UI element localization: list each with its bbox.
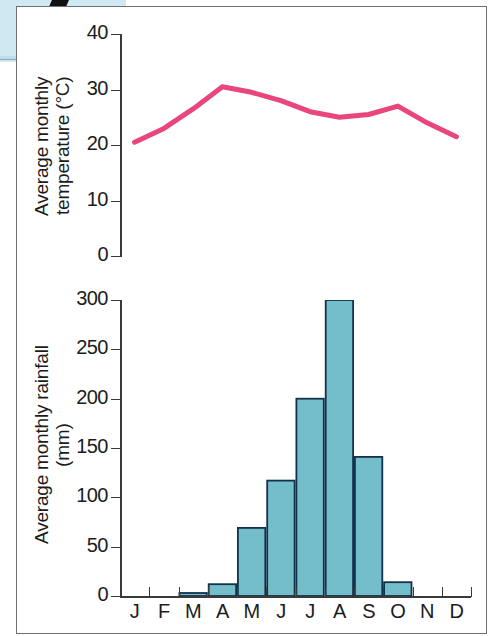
rainfall-x-tick bbox=[208, 587, 209, 597]
temperature-line-svg bbox=[120, 34, 471, 256]
rainfall-bar bbox=[296, 399, 323, 596]
rainfall-y-tick-label: 150 bbox=[48, 435, 108, 458]
temperature-y-tick-label: 30 bbox=[58, 77, 108, 100]
rainfall-x-tick bbox=[383, 587, 384, 597]
rainfall-x-tick bbox=[179, 587, 180, 597]
temperature-line bbox=[135, 87, 457, 143]
rainfall-bars-svg bbox=[120, 300, 471, 596]
rainfall-x-tick bbox=[442, 587, 443, 597]
rainfall-bar bbox=[267, 481, 294, 596]
rainfall-x-tick bbox=[120, 587, 121, 597]
month-label-j-0: J bbox=[123, 600, 147, 623]
temperature-y-tick-label: 40 bbox=[58, 21, 108, 44]
rainfall-chart: Average monthly rainfall (mm) 0501001502… bbox=[17, 289, 488, 635]
month-label-m-2: M bbox=[181, 600, 205, 623]
month-label-j-6: J bbox=[298, 600, 322, 623]
rainfall-y-tick-label: 250 bbox=[48, 336, 108, 359]
month-label-d-11: D bbox=[444, 600, 468, 623]
climate-figure-panel: Average monthly temperature (°C) 0102030… bbox=[16, 6, 487, 634]
rainfall-x-tick bbox=[354, 587, 355, 597]
month-label-f-1: F bbox=[152, 600, 176, 623]
rainfall-y-tick-label: 50 bbox=[48, 534, 108, 557]
rainfall-bar bbox=[384, 582, 411, 596]
month-label-m-4: M bbox=[240, 600, 264, 623]
rainfall-x-tick bbox=[471, 587, 472, 597]
temperature-y-tick-label: 0 bbox=[58, 243, 108, 266]
temperature-y-tick-label: 10 bbox=[58, 188, 108, 211]
month-label-o-9: O bbox=[386, 600, 410, 623]
temperature-y-tick-label: 20 bbox=[58, 132, 108, 155]
rainfall-x-tick bbox=[266, 587, 267, 597]
rainfall-x-tick bbox=[237, 587, 238, 597]
rainfall-bar-group bbox=[179, 300, 411, 596]
temperature-chart: Average monthly temperature (°C) 0102030… bbox=[17, 7, 488, 292]
month-label-j-5: J bbox=[269, 600, 293, 623]
rainfall-bar bbox=[238, 528, 265, 596]
rainfall-y-tick-label: 300 bbox=[48, 287, 108, 310]
rainfall-x-tick bbox=[413, 587, 414, 597]
month-label-a-7: A bbox=[327, 600, 351, 623]
rainfall-y-tick-label: 100 bbox=[48, 484, 108, 507]
scanned-page: Average monthly temperature (°C) 0102030… bbox=[0, 0, 499, 636]
month-label-s-8: S bbox=[357, 600, 381, 623]
temperature-y-tick bbox=[111, 256, 122, 257]
month-label-a-3: A bbox=[210, 600, 234, 623]
rainfall-plot-area bbox=[120, 300, 471, 596]
rainfall-bar bbox=[326, 300, 353, 596]
rainfall-x-tick bbox=[296, 587, 297, 597]
temperature-plot-area bbox=[120, 34, 471, 256]
month-label-n-10: N bbox=[415, 600, 439, 623]
rainfall-bar bbox=[355, 457, 382, 596]
rainfall-x-tick bbox=[149, 587, 150, 597]
rainfall-y-tick-label: 200 bbox=[48, 386, 108, 409]
rainfall-x-tick bbox=[325, 587, 326, 597]
rainfall-y-tick-label: 0 bbox=[48, 583, 108, 606]
rainfall-bar bbox=[209, 584, 236, 596]
